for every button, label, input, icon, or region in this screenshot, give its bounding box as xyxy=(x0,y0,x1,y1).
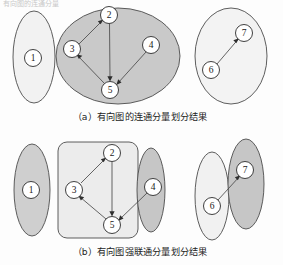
node-a-3[interactable]: 3 xyxy=(64,41,81,58)
panel-a: 1 2 3 4 5 xyxy=(13,7,267,122)
node-a-4-label: 4 xyxy=(149,40,154,50)
node-b-4-label: 4 xyxy=(151,182,156,192)
node-a-1-label: 1 xyxy=(31,53,36,63)
node-b-3-label: 3 xyxy=(72,185,77,195)
edge-a-2-to-5 xyxy=(110,24,111,79)
node-a-7[interactable]: 7 xyxy=(236,25,253,42)
figure-container: 有向图的连通分量 xyxy=(0,0,283,265)
node-b-2-label: 2 xyxy=(110,148,115,158)
graph-figure: 有向图的连通分量 xyxy=(0,0,283,265)
node-a-7-label: 7 xyxy=(242,28,247,38)
node-b-5-label: 5 xyxy=(110,220,115,230)
node-b-1-label: 1 xyxy=(29,185,34,195)
node-b-3[interactable]: 3 xyxy=(66,182,83,199)
node-b-7[interactable]: 7 xyxy=(237,162,254,179)
node-a-2[interactable]: 2 xyxy=(101,7,118,24)
node-a-6-label: 6 xyxy=(209,65,214,75)
node-b-4[interactable]: 4 xyxy=(145,179,162,196)
node-b-6-label: 6 xyxy=(210,201,215,211)
caption-panel-b: （b）有向图强联通分量划分结果 xyxy=(73,246,208,257)
node-b-1[interactable]: 1 xyxy=(23,182,40,199)
region-b-component-7 xyxy=(228,139,264,229)
node-b-5[interactable]: 5 xyxy=(104,217,121,234)
node-a-6[interactable]: 6 xyxy=(203,62,220,79)
node-a-4[interactable]: 4 xyxy=(143,37,160,54)
region-b-component-6 xyxy=(195,152,229,240)
node-b-7-label: 7 xyxy=(243,165,248,175)
panel-b: 1 2 3 4 5 xyxy=(14,139,264,257)
node-a-2-label: 2 xyxy=(107,10,112,20)
region-a-component-67 xyxy=(195,8,267,104)
node-b-2[interactable]: 2 xyxy=(104,145,121,162)
node-b-6[interactable]: 6 xyxy=(204,198,221,215)
node-a-5[interactable]: 5 xyxy=(102,82,119,99)
node-a-3-label: 3 xyxy=(70,44,75,54)
node-a-5-label: 5 xyxy=(108,85,113,95)
caption-panel-a: （a）有向图的连通分量划分结果 xyxy=(73,111,208,122)
node-a-1[interactable]: 1 xyxy=(25,50,42,67)
top-text-fragment: 有向图的连通分量 xyxy=(3,0,59,8)
